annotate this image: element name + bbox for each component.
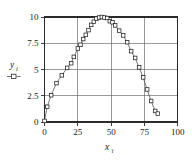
data-point-marker	[84, 33, 88, 37]
data-point-marker	[72, 55, 76, 59]
data-point-marker	[145, 88, 149, 92]
y-tick-labels: 0 2.5 5 7.5 10	[27, 12, 39, 127]
x-tick-label-50: 50	[107, 127, 117, 137]
data-point-marker	[55, 81, 59, 85]
data-point-marker	[87, 28, 91, 32]
y-axis-title-subscript: i	[16, 65, 18, 72]
data-point-marker	[141, 76, 145, 80]
data-series-group	[43, 15, 160, 123]
data-point-marker	[121, 34, 125, 38]
y-axis-title: y i	[7, 60, 21, 79]
data-point-marker	[79, 43, 83, 47]
data-point-marker	[45, 105, 49, 109]
x-tick-label-100: 100	[171, 127, 185, 137]
data-point-marker	[137, 66, 141, 70]
x-axis-title-subscript: i	[112, 147, 114, 154]
x-tick-labels: 0 25 50 75 100	[42, 127, 185, 137]
x-axis-title-base: x	[104, 142, 110, 152]
data-point-marker	[133, 56, 137, 60]
chart-plot-area: 0 25 50 75 100 0 2.5 5 7.5 10 y i x i	[0, 0, 192, 161]
x-axis-title: x i	[104, 142, 114, 154]
x-tick-label-25: 25	[73, 127, 83, 137]
y-tick-label-5: 5	[34, 65, 39, 75]
y-tick-label-2.5: 2.5	[27, 91, 39, 101]
data-point-marker	[60, 73, 64, 77]
data-point-marker	[113, 24, 117, 28]
data-point-marker	[156, 112, 160, 116]
data-point-marker	[69, 61, 73, 65]
legend-square-marker	[12, 74, 16, 78]
data-point-marker	[81, 37, 85, 41]
y-axis-title-base: y	[9, 60, 15, 70]
data-series-markers	[43, 15, 160, 123]
data-point-marker	[125, 40, 129, 44]
x-tick-label-75: 75	[140, 127, 150, 137]
data-point-marker	[76, 47, 80, 51]
data-point-marker	[65, 66, 69, 70]
x-tick-label-0: 0	[42, 127, 47, 137]
data-point-marker	[129, 49, 133, 53]
y-tick-label-0: 0	[34, 117, 39, 127]
y-tick-label-10: 10	[30, 12, 40, 22]
x-axis-ticks	[45, 122, 178, 126]
data-point-marker	[43, 119, 47, 123]
data-point-marker	[117, 29, 121, 33]
y-tick-label-7.5: 7.5	[27, 38, 39, 48]
data-point-marker	[49, 93, 53, 97]
data-point-marker	[149, 99, 153, 103]
chart-figure: 0 25 50 75 100 0 2.5 5 7.5 10 y i x i	[0, 0, 192, 161]
